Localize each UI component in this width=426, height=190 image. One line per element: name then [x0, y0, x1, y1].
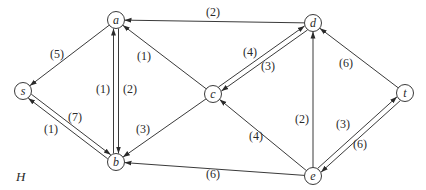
edge-a-to-s: [30, 25, 109, 86]
node-label: c: [210, 87, 216, 101]
edge-weight-a-s: (5): [50, 47, 64, 61]
edge-weight-e-t: (3): [336, 117, 350, 131]
edge-weight-c-d: (3): [261, 59, 275, 73]
graph-name-label: H: [15, 169, 26, 184]
edge-c-to-a: [123, 25, 206, 89]
node-a: a: [108, 12, 125, 29]
nodes-layer: abscdte: [15, 12, 414, 185]
node-s: s: [15, 83, 32, 100]
node-b: b: [108, 154, 125, 171]
edge-weight-s-b: (1): [44, 122, 58, 136]
edge-c-to-d: [218, 26, 304, 87]
edge-e-to-c: [220, 99, 307, 170]
edge-b-to-s: [28, 98, 107, 159]
edge-weight-a-b: (1): [96, 82, 110, 96]
edge-weight-d-c: (4): [243, 45, 257, 59]
edge-e-to-t: [318, 97, 397, 169]
edge-weight-e-d: (2): [295, 112, 309, 126]
edge-weight-e-b: (6): [206, 167, 220, 181]
edge-weight-t-e: (6): [353, 137, 367, 151]
edge-weight-b-a: (2): [123, 82, 137, 96]
node-d: d: [305, 15, 322, 32]
edge-t-to-d: [320, 28, 398, 88]
node-t: t: [397, 85, 414, 102]
edge-weight-c-b: (3): [136, 122, 150, 136]
edge-weight-t-d: (6): [339, 56, 353, 70]
edge-weight-c-a: (1): [137, 49, 151, 63]
node-e: e: [305, 168, 322, 185]
node-label: a: [113, 13, 119, 27]
node-label: b: [113, 155, 119, 169]
edge-weight-e-c: (4): [249, 129, 263, 143]
edge-d-to-a: [124, 20, 304, 23]
node-label: e: [310, 169, 316, 183]
node-c: c: [205, 86, 222, 103]
node-label: s: [21, 84, 26, 98]
edge-weight-b-s: (7): [68, 110, 82, 124]
graph-canvas: (2)(5)(1)(1)(2)(4)(3)(6)(2)(4)(3)(7)(1)(…: [0, 0, 426, 190]
edge-weight-d-a: (2): [206, 5, 220, 19]
node-label: d: [310, 16, 317, 30]
